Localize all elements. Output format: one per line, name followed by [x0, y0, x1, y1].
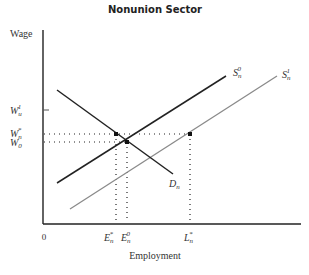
svg-text:Sn1: Sn1 [282, 67, 291, 82]
curve-label-s1: Sn1 [282, 67, 291, 82]
y-tick-label-wu1: Wu1 [10, 103, 22, 118]
nonunion-sector-diagram: Nonunion Sector Wage Employment 0 Wu1 Wn… [0, 0, 309, 275]
svg-text:Wu1: Wu1 [10, 103, 22, 118]
x-tick-label-en-star: En* [103, 230, 114, 245]
x-axis-label: Employment [129, 250, 181, 261]
svg-text:En0: En0 [120, 230, 131, 245]
svg-text:En*: En* [103, 230, 114, 245]
x-tick-label-en0: En0 [120, 230, 131, 245]
svg-text:Sn0: Sn0 [233, 65, 242, 80]
supply-curve-s0 [57, 76, 226, 183]
svg-text:Ln*: Ln* [183, 230, 194, 245]
point-equilibrium-e0 [125, 140, 129, 144]
curve-label-s0: Sn0 [233, 65, 242, 80]
x-tick-label-ln-star: Ln* [183, 230, 194, 245]
origin-label: 0 [42, 232, 47, 242]
y-axis-label: Wage [10, 28, 33, 39]
diagram-title: Nonunion Sector [108, 4, 202, 15]
supply-curve-s1 [70, 76, 277, 209]
svg-text:Dn: Dn [168, 178, 180, 191]
point-ln-star [188, 132, 192, 136]
curve-label-d: Dn [168, 178, 180, 191]
point-wn-star-en-star [114, 132, 118, 136]
